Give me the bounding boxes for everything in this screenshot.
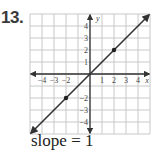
y-tick-label: −2 bbox=[79, 94, 88, 103]
y-axis-label: y bbox=[95, 14, 100, 23]
x-tick-label: 4 bbox=[136, 76, 140, 85]
data-point bbox=[64, 96, 68, 100]
slope-caption: slope = 1 bbox=[31, 131, 93, 151]
x-tick-label: 3 bbox=[124, 76, 128, 85]
x-tick-label: −2 bbox=[62, 76, 71, 85]
x-tick-label: −3 bbox=[50, 76, 59, 85]
y-tick-label: −4 bbox=[79, 118, 88, 127]
data-point bbox=[112, 48, 116, 52]
y-tick-label: 1 bbox=[84, 58, 88, 67]
y-tick-label: 2 bbox=[84, 46, 88, 55]
y-tick-label: 3 bbox=[84, 34, 88, 43]
x-tick-label: −4 bbox=[38, 76, 47, 85]
y-tick-label: 4 bbox=[84, 22, 88, 31]
x-tick-label: 1 bbox=[100, 76, 104, 85]
y-tick-label: −3 bbox=[79, 106, 88, 115]
x-axis-label: x bbox=[144, 76, 149, 85]
x-tick-label: 2 bbox=[112, 76, 116, 85]
coordinate-plane: −4−3−212344321−2−3−4xy bbox=[0, 0, 156, 152]
